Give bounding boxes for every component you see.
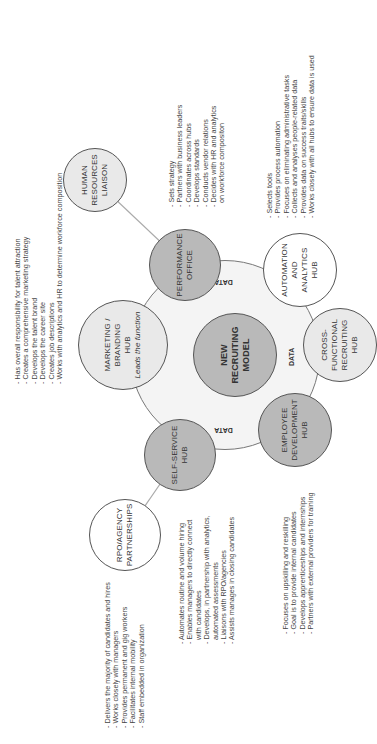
data-label-left: DATA [214, 427, 232, 434]
marketing-line-2: BRANDING [113, 323, 123, 366]
hr-line-1: HUMAN [80, 165, 90, 195]
center-line-1: NEW [219, 344, 230, 365]
cross-line-2: FUNCTIONAL [330, 319, 340, 371]
center-line-3: MODEL [241, 339, 252, 372]
hub-performance-office: PERFORMANCE OFFICE [149, 229, 221, 301]
automation-line-3: ANALYTICS [300, 248, 310, 293]
performance-responsibilities: Sets strategy Partners with business lea… [168, 105, 227, 207]
automation-responsibilities: Selects tools Provides process automatio… [266, 55, 316, 218]
hub-automation-analytics: AUTOMATION AND ANALYTICS HUB [263, 233, 337, 307]
automation-line-2: AND [290, 261, 300, 278]
automation-line-4: HUB [310, 261, 320, 278]
performance-line-1: PERFORMANCE [175, 233, 185, 296]
rpo-line-2: PARTNERSHIPS [125, 504, 135, 567]
automation-line-1: AUTOMATION [280, 243, 290, 297]
list-item: Works with analytics and HR to determine… [56, 173, 64, 384]
hub-marketing-branding: MARKETING / BRANDING HUB Leads the funct… [78, 300, 168, 390]
list-item: Staff embedded in organization [138, 582, 146, 728]
list-item: Assists manages in closing candidates [228, 515, 236, 644]
employee-line-2: DEVELOPMENT [290, 399, 300, 461]
list-item: on workforce compositon [218, 105, 226, 207]
hub-cross-functional: CROSS- FUNCTIONAL RECRUITING HUB [303, 308, 377, 382]
selfservice-line-1: SELF-SERVICE [170, 426, 180, 485]
marketing-responsibilities: Has overall responsibility for talent at… [14, 173, 64, 384]
rpo-responsibilities: Delivers the majority of candidates and … [104, 582, 146, 728]
hub-employee-development: EMPLOYEE DEVELOPMENT HUB [258, 393, 332, 467]
center-line-2: RECRUITING [230, 327, 241, 384]
marketing-line-1: MARKETING / [103, 318, 113, 371]
list-item: Partners with external providers for tra… [307, 493, 315, 634]
data-label-bottom: DATA [288, 348, 295, 366]
self-service-responsibilities: Automates routine and volume hiring Enab… [178, 515, 237, 644]
cross-line-1: CROSS- [320, 329, 330, 361]
hub-self-service: SELF-SERVICE HUB [144, 419, 216, 491]
center-new-recruiting-model: NEW RECRUITING MODEL [193, 313, 277, 397]
employee-line-3: HUB [300, 421, 310, 438]
employee-line-1: EMPLOYEE [280, 408, 290, 453]
performance-line-2: OFFICE [185, 250, 195, 280]
hub-human-resources-liaison: HUMAN RESOURCES LIAISON [63, 148, 127, 212]
marketing-line-3: HUB [123, 336, 133, 353]
list-item: Works closely with all hubs to ensure da… [308, 55, 316, 218]
hr-line-3: LIAISON [100, 164, 110, 196]
rpo-line-1: RPO/AGENCY [115, 508, 125, 562]
marketing-subtitle: Leads the function [133, 311, 143, 378]
cross-line-4: HUB [350, 336, 360, 353]
cross-line-3: RECRUITING [340, 320, 350, 371]
selfservice-line-2: HUB [180, 446, 190, 463]
hub-rpo-agency: RPO/AGENCY PARTNERSHIPS [89, 499, 161, 571]
hr-line-2: RESOURCES [90, 154, 100, 206]
employee-development-responsibilities: Focuses on upskilling and reskilling Goa… [282, 493, 316, 634]
